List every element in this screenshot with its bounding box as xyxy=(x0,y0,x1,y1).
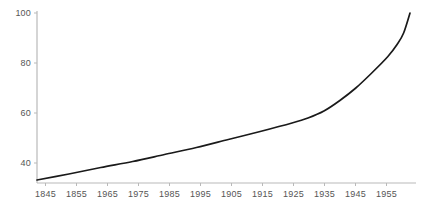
x-tick-label: 1935 xyxy=(314,190,335,199)
x-tick-label: 1945 xyxy=(345,190,366,199)
y-tick-label: 80 xyxy=(2,59,31,68)
x-tick-label: 1925 xyxy=(283,190,304,199)
y-tick-label: 40 xyxy=(2,159,31,168)
x-tick-label: 1955 xyxy=(376,190,397,199)
x-tick-label: 1975 xyxy=(128,190,149,199)
x-tick-label: 1965 xyxy=(97,190,118,199)
y-tick-label: 60 xyxy=(2,109,31,118)
x-tick-label: 1845 xyxy=(35,190,56,199)
x-tick-label: 1905 xyxy=(221,190,242,199)
x-tick-label: 1915 xyxy=(252,190,273,199)
axis-lines xyxy=(37,11,416,183)
x-tick-label: 1995 xyxy=(190,190,211,199)
data-series-line xyxy=(37,13,410,180)
y-tick-label: 100 xyxy=(2,9,31,18)
x-tick-label: 1855 xyxy=(66,190,87,199)
x-tick-label: 1985 xyxy=(159,190,180,199)
chart-plot-area xyxy=(0,0,421,211)
line-chart: 406080100 184518551965197519851995190519… xyxy=(0,0,421,211)
